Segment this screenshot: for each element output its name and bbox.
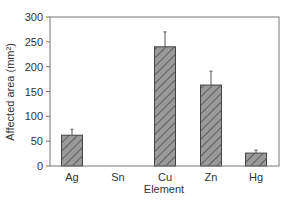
bars bbox=[62, 32, 267, 166]
bar-zn bbox=[201, 85, 222, 166]
y-tick-label: 250 bbox=[25, 36, 43, 48]
y-tick-label: 0 bbox=[37, 160, 43, 172]
bar-ag bbox=[62, 135, 83, 166]
x-tick-label: Cu bbox=[158, 171, 172, 183]
x-tick-label: Hg bbox=[249, 171, 263, 183]
y-tick-label: 100 bbox=[25, 110, 43, 122]
x-tick-label: Zn bbox=[205, 171, 218, 183]
bar-cu bbox=[155, 47, 176, 166]
y-tick-label: 150 bbox=[25, 86, 43, 98]
x-tick-label: Sn bbox=[111, 171, 124, 183]
bar-hg bbox=[246, 153, 267, 166]
y-tick-label: 200 bbox=[25, 61, 43, 73]
y-axis-ticks: 050100150200250300 bbox=[25, 11, 50, 172]
bar-chart: 050100150200250300 AgSnCuZnHg Element Af… bbox=[0, 0, 296, 206]
y-tick-label: 50 bbox=[31, 135, 43, 147]
x-axis-title: Element bbox=[144, 183, 184, 195]
y-tick-label: 300 bbox=[25, 11, 43, 23]
x-tick-label: Ag bbox=[65, 171, 78, 183]
x-axis-ticks: AgSnCuZnHg bbox=[65, 171, 263, 183]
y-axis-title: Affected area (mm²) bbox=[4, 43, 16, 141]
